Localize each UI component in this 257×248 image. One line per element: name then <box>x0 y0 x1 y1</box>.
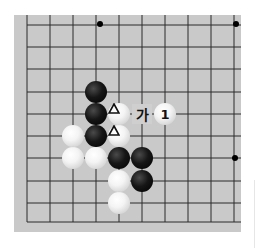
triangle-mark-icon <box>108 103 120 114</box>
black-stone <box>131 170 153 192</box>
white-stone <box>62 125 84 147</box>
white-stone: 1 <box>154 103 176 125</box>
star-point <box>232 155 238 161</box>
white-stone <box>108 125 130 147</box>
white-stone <box>108 103 130 125</box>
black-stone <box>85 125 107 147</box>
black-stone <box>85 103 107 125</box>
triangle-mark-icon <box>108 125 120 136</box>
black-stone <box>131 147 153 169</box>
star-point <box>97 21 103 27</box>
page-edge-divider <box>254 180 255 248</box>
go-board: 가1 <box>14 15 241 232</box>
white-stone <box>62 147 84 169</box>
white-stone <box>85 147 107 169</box>
move-number: 1 <box>160 107 169 122</box>
black-stone <box>108 147 130 169</box>
white-stone <box>108 170 130 192</box>
white-stone <box>108 192 130 214</box>
star-point <box>233 21 239 27</box>
point-label: 가 <box>132 104 152 124</box>
black-stone <box>85 81 107 103</box>
